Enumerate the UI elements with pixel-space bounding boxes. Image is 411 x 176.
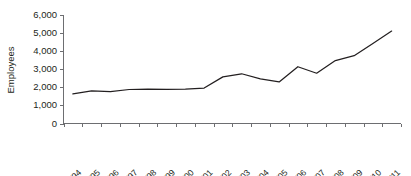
x-axis-tick-marks bbox=[65, 124, 402, 128]
employees-line-chart: Employees 01,0002,0003,0004,0005,0006,00… bbox=[0, 0, 411, 176]
x-tick-label: 1993/94 bbox=[54, 167, 83, 176]
employees-series-line bbox=[73, 31, 392, 94]
y-axis-tick-labels: 01,0002,0003,0004,0005,0006,000 bbox=[33, 9, 57, 129]
y-tick-label: 3,000 bbox=[33, 63, 57, 74]
y-tick-label: 6,000 bbox=[33, 9, 57, 20]
y-axis-tick-marks bbox=[60, 16, 64, 125]
chart-container: Employees 01,0002,0003,0004,0005,0006,00… bbox=[0, 0, 411, 176]
y-axis-title: Employees bbox=[5, 46, 16, 93]
y-tick-label: 1,000 bbox=[33, 99, 57, 110]
y-tick-label: 2,000 bbox=[33, 81, 57, 92]
y-tick-label: 4,000 bbox=[33, 45, 57, 56]
y-tick-label: 5,000 bbox=[33, 27, 57, 38]
y-tick-label: 0 bbox=[52, 118, 57, 129]
x-axis-tick-labels: 1993/941994/951995/961996/971997/981998/… bbox=[54, 167, 402, 176]
